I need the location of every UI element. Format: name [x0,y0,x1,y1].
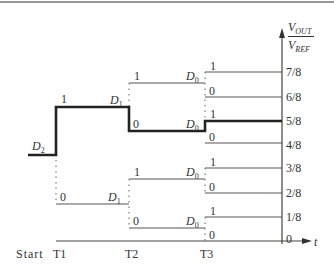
level-label: 1/8 [286,211,301,223]
t2-branch-lines [129,83,205,228]
y-axis-arrow-icon [279,28,285,38]
bit-label-d0: D0 [186,118,199,135]
bit-label-d0: D0 [186,70,199,87]
selected-conversion-path [28,107,282,155]
level-label: 5/8 [286,115,301,127]
y-axis-label-fraction-bar [288,36,314,37]
t3-level-lines [205,72,282,217]
branch-label-0: 0 [209,85,215,97]
branch-label-0: 0 [209,229,215,241]
level-label: 7/8 [286,66,301,78]
bit-label-d0: D0 [186,215,199,232]
y-axis-label-denominator: VREF [288,39,310,56]
branch-label-0: 0 [209,131,215,143]
branch-label-1: 1 [210,156,216,168]
level-label: 2/8 [286,187,301,199]
time-label-start: Start [16,248,44,260]
level-label: 4/8 [286,139,301,151]
time-label-t3: T3 [200,248,213,260]
level-label: 6/8 [286,91,301,103]
branch-label-0: 0 [133,215,139,227]
bit-label-d2: D2 [32,140,45,157]
x-axis-arrow-icon [302,238,312,244]
branch-label-0: 0 [60,191,66,203]
branch-label-0: 0 [209,181,215,193]
branch-label-1: 1 [134,166,140,178]
bit-label-d1: D1 [110,94,123,111]
branch-label-1: 1 [210,205,216,217]
x-axis-label: t [314,236,317,248]
diagram-lines [0,0,334,270]
branch-label-1: 1 [61,93,67,105]
branch-label-1: 1 [210,108,216,120]
bit-label-d1: D1 [108,191,121,208]
level-label: 0 [286,233,292,245]
branch-label-0: 0 [133,118,139,130]
sar-timing-diagram: VOUT VREF t 7/8 6/8 5/8 4/8 3/8 2/8 1/8 … [0,0,334,270]
time-label-t1: T1 [53,248,66,260]
branch-label-1: 1 [210,60,216,72]
time-label-t2: T2 [125,248,138,260]
dotted-branch-connectors [56,72,205,241]
branch-label-1: 1 [134,70,140,82]
bit-label-d0: D0 [186,166,199,183]
level-label: 3/8 [286,162,301,174]
